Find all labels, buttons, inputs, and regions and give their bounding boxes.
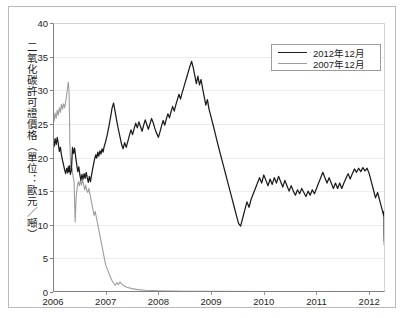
legend-swatch-2007-icon xyxy=(278,63,307,64)
y-tick-label: 35 xyxy=(24,51,48,62)
x-tick-label: 2011 xyxy=(292,296,340,307)
y-tick-mark xyxy=(50,292,53,293)
legend-label-2007: 2007年12月 xyxy=(313,57,365,71)
legend-swatch-2012-icon xyxy=(278,52,307,53)
series-line-2012-12 xyxy=(53,61,385,245)
y-tick-label: 40 xyxy=(24,18,48,29)
x-tick-label: 2009 xyxy=(187,296,235,307)
y-tick-label: 5 xyxy=(24,253,48,264)
carbon-price-chart-figure: 二氧化碳許可證價格（單位：歐元／噸） 0510152025303540 2006… xyxy=(0,0,404,318)
y-tick-label: 15 xyxy=(24,186,48,197)
x-tick-mark xyxy=(369,292,370,295)
legend-item-2007: 2007年12月 xyxy=(276,58,376,69)
x-tick-mark xyxy=(211,292,212,295)
y-tick-label: 25 xyxy=(24,118,48,129)
x-tick-mark xyxy=(316,292,317,295)
y-tick-label: 30 xyxy=(24,85,48,96)
y-tick-label: 10 xyxy=(24,219,48,230)
x-tick-mark xyxy=(106,292,107,295)
x-tick-mark xyxy=(264,292,265,295)
x-tick-label: 2008 xyxy=(134,296,182,307)
chart-legend: 2012年12月 2007年12月 xyxy=(271,44,381,71)
x-tick-mark xyxy=(158,292,159,295)
x-tick-label: 2006 xyxy=(29,296,77,307)
y-tick-label: 20 xyxy=(24,152,48,163)
x-tick-label: 2010 xyxy=(240,296,288,307)
x-tick-label: 2012 xyxy=(345,296,393,307)
x-tick-label: 2007 xyxy=(82,296,130,307)
